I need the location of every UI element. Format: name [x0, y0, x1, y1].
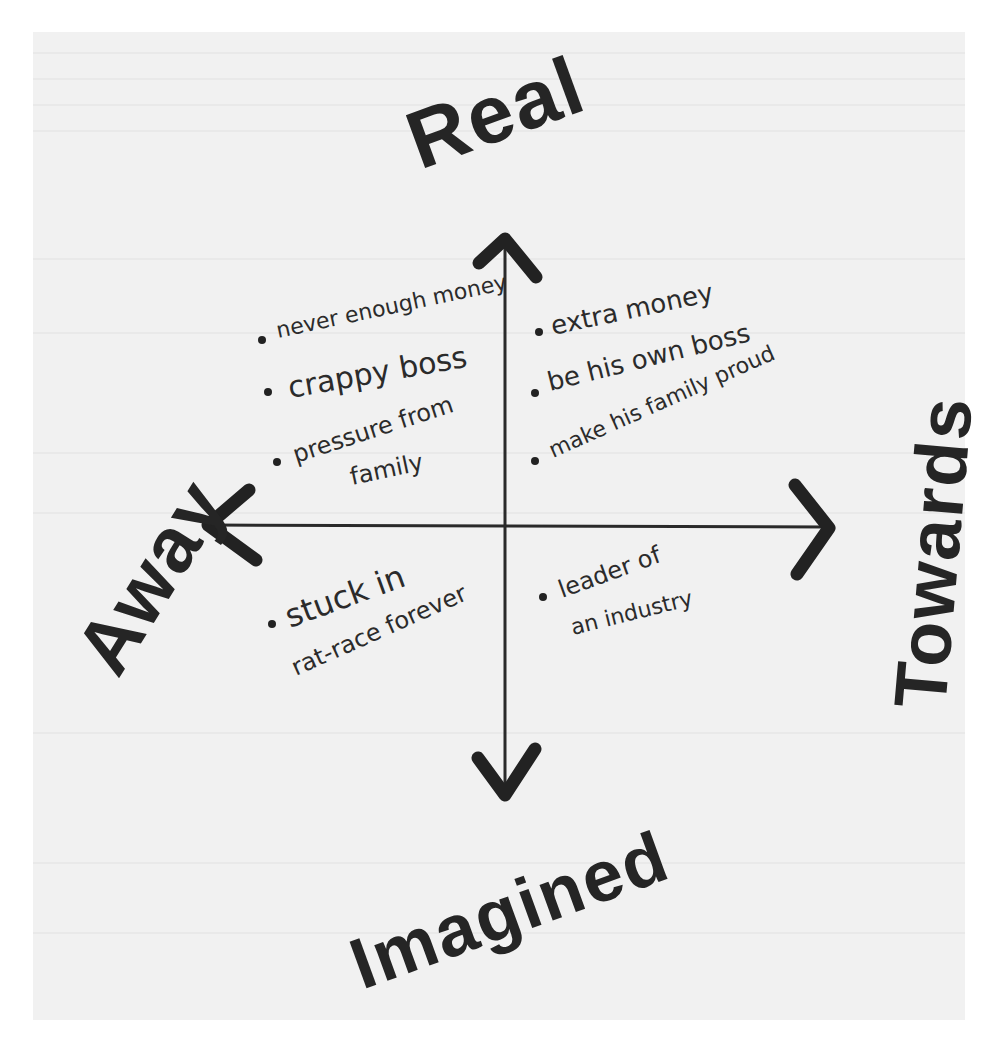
bullet-icon [258, 336, 266, 344]
note-text: never enough money [274, 270, 509, 343]
bullet-icon [268, 620, 276, 628]
arrow-right-icon [795, 485, 829, 574]
note-text: pressure from [289, 390, 457, 468]
bullet-icon [535, 328, 543, 336]
note-text: leader of [554, 541, 664, 604]
axis-label-right: Towards [878, 393, 988, 712]
axis-label-bottom: Imagined [340, 815, 679, 1004]
bullet-icon [539, 593, 547, 601]
bullet-icon [531, 389, 539, 397]
axis-label-top: Real [395, 38, 596, 185]
bullet-icon [273, 458, 281, 466]
quadrant-top-left: never enough money crappy boss pressure … [258, 270, 509, 491]
bullet-icon [531, 457, 539, 465]
quadrant-top-right: extra money be his own boss make his fam… [531, 277, 779, 465]
axis-label-left: Away [58, 464, 244, 689]
list-item: leader of an industry [539, 541, 695, 640]
quadrant-diagram: Real Imagined Away Towards never enough … [0, 0, 996, 1039]
list-item: pressure from family [273, 390, 457, 490]
arrow-up-icon [479, 239, 536, 277]
bullet-icon [264, 388, 272, 396]
quadrant-bottom-left: stuck in rat-race forever [268, 557, 471, 681]
list-item: stuck in rat-race forever [268, 557, 471, 681]
list-item: never enough money [258, 270, 509, 344]
note-text-line-2: family [347, 448, 425, 491]
quadrant-bottom-right: leader of an industry [539, 541, 695, 640]
horizontal-axis [210, 525, 828, 527]
